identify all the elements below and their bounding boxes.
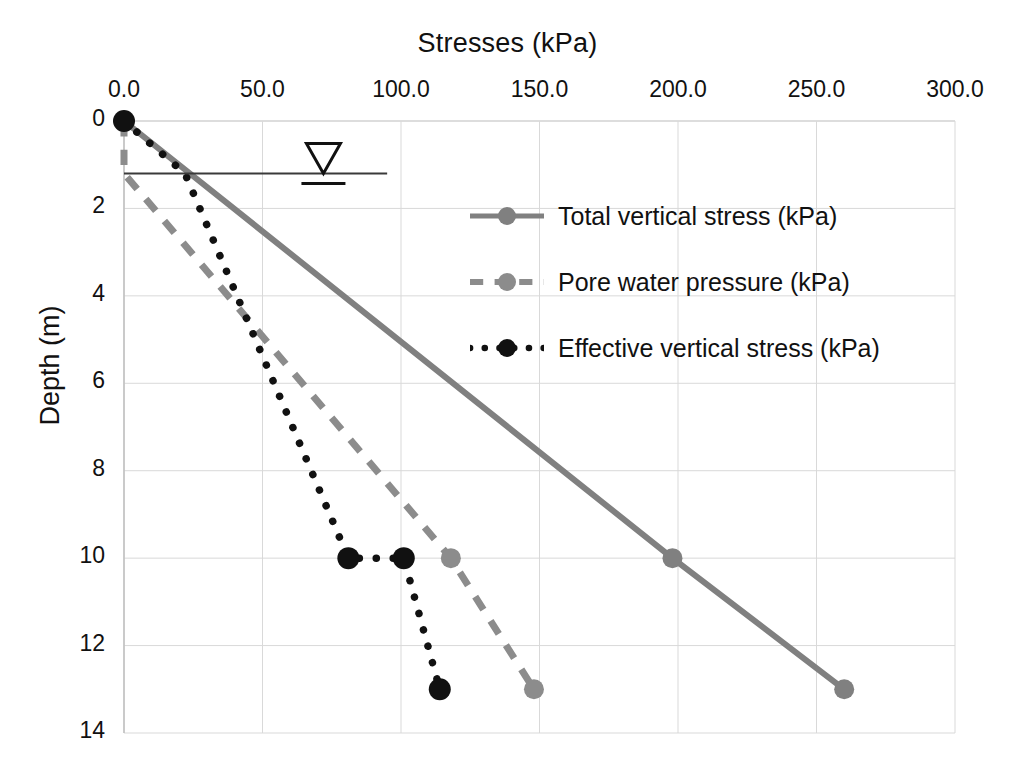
data-point-marker <box>429 678 451 700</box>
data-point-marker <box>337 547 359 569</box>
legend-label: Total vertical stress (kPa) <box>558 202 837 231</box>
data-point-marker <box>393 547 415 569</box>
legend-label: Effective vertical stress (kPa) <box>558 334 880 363</box>
legend-key-icon <box>470 203 544 229</box>
stress-depth-chart: Stresses (kPa) Depth (m) 0.050.0100.0150… <box>0 0 1015 773</box>
legend-item: Pore water pressure (kPa) <box>470 249 880 315</box>
plot-area <box>0 0 1015 773</box>
data-point-marker <box>662 548 682 568</box>
data-point-marker <box>113 110 135 132</box>
chart-legend: Total vertical stress (kPa)Pore water pr… <box>470 183 880 381</box>
legend-item: Effective vertical stress (kPa) <box>470 315 880 381</box>
legend-swatch <box>470 335 544 361</box>
data-point-marker <box>524 679 544 699</box>
legend-item: Total vertical stress (kPa) <box>470 183 880 249</box>
legend-key-icon <box>470 269 544 295</box>
legend-label: Pore water pressure (kPa) <box>558 268 850 297</box>
water-table-triangle-icon <box>306 143 340 173</box>
legend-swatch <box>470 269 544 295</box>
legend-marker <box>498 207 516 225</box>
series-line-2 <box>124 121 440 689</box>
legend-swatch <box>470 203 544 229</box>
data-point-marker <box>834 679 854 699</box>
legend-marker <box>498 273 516 291</box>
legend-marker <box>498 339 516 357</box>
legend-key-icon <box>470 335 544 361</box>
data-point-marker <box>441 548 461 568</box>
